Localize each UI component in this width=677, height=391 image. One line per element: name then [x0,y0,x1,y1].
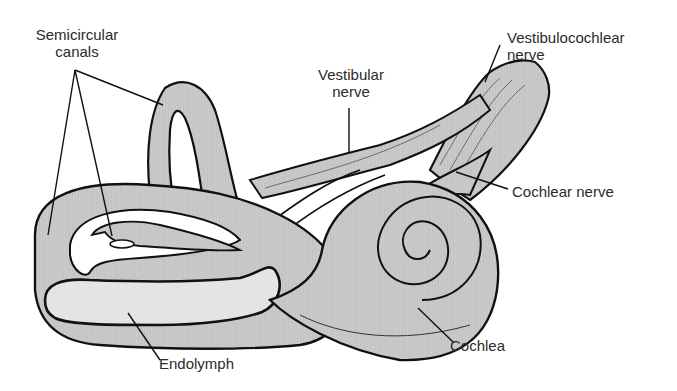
label-endolymph: Endolymph [159,355,234,372]
label-semicircular-canals: Semicircular canals [18,26,136,60]
label-vestibular-nerve-line1: Vestibular [298,66,404,83]
label-vestibular-nerve-line2: nerve [298,83,404,100]
label-cochlear-nerve: Cochlear nerve [512,183,614,200]
label-semicircular-canals-line1: Semicircular [18,26,136,43]
label-vestibulocochlear-nerve-line1: Vestibulocochlear [507,29,625,46]
label-vestibulocochlear-nerve-line2: nerve [507,46,625,63]
inner-ear-diagram: Semicircular canals Vestibular nerve Ves… [0,0,677,391]
label-vestibulocochlear-nerve: Vestibulocochlear nerve [507,29,625,63]
label-vestibular-nerve: Vestibular nerve [298,66,404,100]
label-cochlea: Cochlea [450,337,505,354]
leader-semicircular-3 [75,70,163,105]
label-semicircular-canals-line2: canals [18,43,136,60]
